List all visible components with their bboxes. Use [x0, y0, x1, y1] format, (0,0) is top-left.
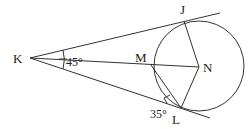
label-m: M: [135, 50, 147, 65]
angle-label-k: 45°: [66, 55, 83, 69]
radius-nj: [184, 21, 199, 67]
tangent-kj: [30, 13, 220, 58]
segment-kn: [30, 58, 199, 67]
label-n: N: [203, 60, 213, 75]
label-j: J: [180, 2, 185, 17]
angle-label-l: 35°: [150, 107, 167, 121]
label-k: K: [13, 51, 23, 66]
radius-nl: [181, 67, 199, 108]
tangent-kl: [30, 58, 210, 118]
label-l: L: [172, 112, 180, 127]
geometry-diagram: K J M N L 45° 35°: [0, 0, 248, 129]
